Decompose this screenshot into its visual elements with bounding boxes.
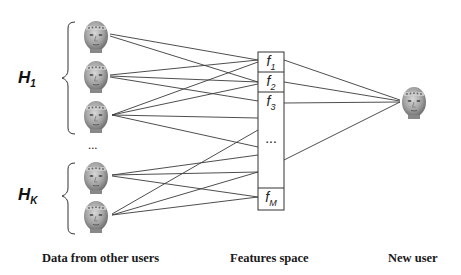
caption-new-user: New user: [388, 251, 438, 266]
brace-h1: [62, 22, 75, 134]
feature-fm: fM: [258, 189, 284, 208]
caption-features-space: Features space: [230, 251, 309, 266]
caption-other-users: Data from other users: [42, 251, 159, 266]
user-face-icon: [84, 61, 108, 93]
feature-f2: f2: [258, 73, 284, 92]
feature-f1: f1: [258, 53, 284, 72]
group-label-h1: H1: [18, 68, 36, 89]
feature-ellipsis: ...: [258, 130, 284, 146]
feature-f3: f3: [258, 93, 284, 112]
new-user-face-icon: [402, 87, 426, 119]
diagram-canvas: [0, 0, 461, 275]
users-ellipsis: ...: [88, 138, 97, 153]
user-face-icon: [84, 162, 108, 194]
feature-newuser-links: [284, 60, 400, 160]
user-feature-links: [110, 34, 258, 215]
user-face-icon: [84, 101, 108, 133]
brace-hk: [62, 163, 75, 234]
group-label-hk: HK: [18, 185, 38, 206]
user-face-icon: [84, 201, 108, 233]
user-face-icon: [84, 21, 108, 53]
